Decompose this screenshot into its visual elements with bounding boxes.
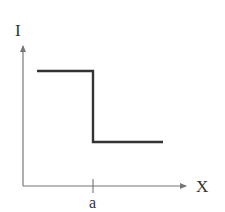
step-function-diagram: I X a <box>0 0 225 212</box>
x-axis-label: X <box>196 177 208 196</box>
y-axis-label: I <box>15 21 21 40</box>
tick-label-a: a <box>89 194 96 211</box>
step-curve <box>37 71 163 142</box>
